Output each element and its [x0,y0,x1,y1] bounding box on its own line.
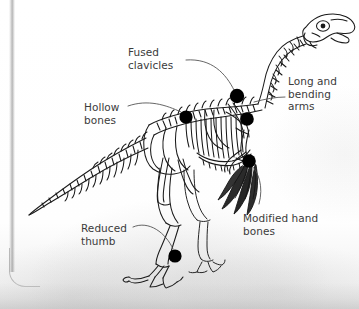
leader-lines [128,60,285,249]
hind-limb-far [184,170,225,273]
marker-clavicle [230,89,244,103]
marker-thumb [168,249,181,262]
skeleton-figure [0,0,359,309]
marker-arm [240,112,254,126]
marker-hand [242,154,256,168]
leader-fused-clavicles [186,60,234,90]
tail [29,132,148,215]
skull [303,14,355,48]
scanned-page: Fused clavicles Hollow bones Long and be… [0,0,359,309]
leader-reduced-thumb [133,225,173,249]
hand-claws [218,165,258,215]
marker-hollow-bone [179,110,192,123]
pelvis [144,125,199,205]
